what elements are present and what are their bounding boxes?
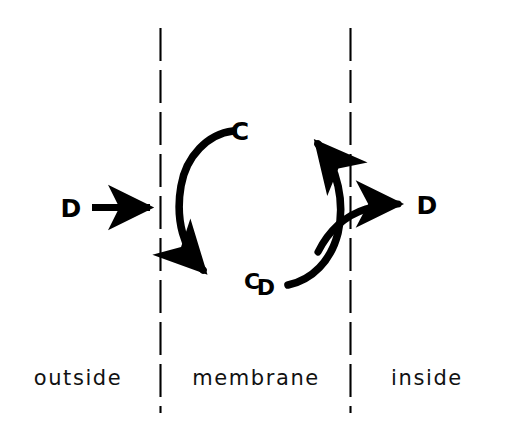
carrier-return-arrow: [288, 144, 341, 285]
carrier-label-top: C: [231, 117, 249, 146]
complex-label-bottom-second: D: [257, 275, 275, 300]
substrate-label-inside: D: [417, 191, 438, 220]
carrier-loading-arrow: [179, 131, 233, 270]
substrate-release-arrow: [318, 204, 398, 252]
region-label-inside: inside: [391, 366, 463, 390]
region-label-outside: outside: [34, 366, 123, 390]
membrane-transport-diagram: C C D D D outside membrane inside: [0, 0, 513, 431]
diagram-canvas: C C D D D outside membrane inside: [0, 0, 513, 431]
region-label-membrane: membrane: [192, 366, 320, 390]
substrate-label-outside: D: [61, 194, 82, 223]
